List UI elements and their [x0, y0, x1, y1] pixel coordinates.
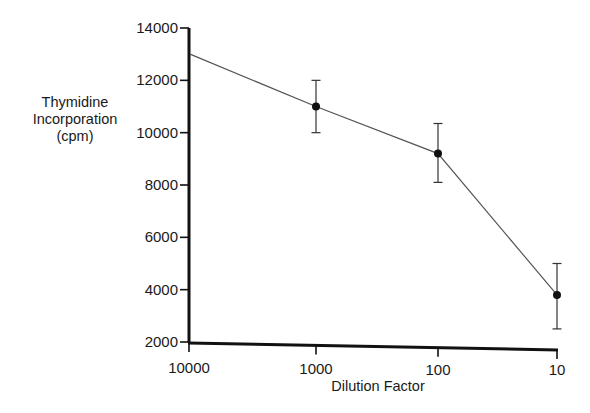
- x-tick-label: 1000: [299, 360, 332, 377]
- data-series: [190, 54, 562, 329]
- x-axis: 10000100010010: [168, 343, 565, 378]
- x-axis-line: [188, 343, 558, 350]
- y-tick-label: 2000: [145, 333, 178, 350]
- data-point-marker: [312, 103, 320, 111]
- axis-labels: Thymidine Incorporation (cpm) Dilution F…: [33, 94, 425, 394]
- x-axis-title: Dilution Factor: [331, 378, 425, 394]
- series-line: [190, 54, 557, 295]
- y-tick-label: 8000: [145, 176, 178, 193]
- y-tick-label: 10000: [136, 124, 178, 141]
- y-axis: 2000400060008000100001200014000: [136, 19, 189, 350]
- y-axis-title-line1: Thymidine: [42, 94, 109, 110]
- y-tick-label: 4000: [145, 281, 178, 298]
- x-tick-label: 10000: [168, 359, 210, 376]
- y-axis-title-line2: Incorporation: [33, 111, 118, 127]
- y-tick-label: 14000: [136, 19, 178, 36]
- y-tick-label: 6000: [145, 228, 178, 245]
- data-point-marker: [553, 291, 561, 299]
- y-axis-title-line3: (cpm): [56, 128, 93, 144]
- x-tick-label: 10: [549, 361, 566, 378]
- line-chart: 2000400060008000100001200014000 10000100…: [0, 0, 590, 413]
- y-tick-label: 12000: [136, 71, 178, 88]
- x-tick-label: 100: [425, 361, 450, 378]
- data-point-marker: [434, 150, 442, 158]
